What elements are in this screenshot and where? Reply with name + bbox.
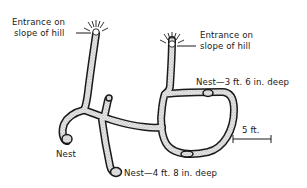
spur-chamber bbox=[106, 95, 112, 101]
nest-upper-chamber bbox=[203, 90, 213, 97]
nest-left-chamber bbox=[62, 135, 72, 144]
label-nest-left: Nest bbox=[56, 149, 76, 159]
loop-bottom-chamber bbox=[181, 151, 193, 157]
label-entrance-left-2: slope of hill bbox=[14, 28, 65, 38]
scale-bar bbox=[233, 135, 271, 143]
nest-lower-chamber bbox=[111, 168, 122, 177]
label-entrance-left-1: Entrance on bbox=[12, 17, 65, 27]
label-entrance-right-2: slope of hill bbox=[200, 41, 251, 51]
label-entrance-right-1: Entrance on bbox=[200, 30, 253, 40]
label-scale: 5 ft. bbox=[242, 125, 260, 135]
tunnel-fill bbox=[63, 34, 234, 172]
label-nest-lower: Nest—4 ft. 8 in. deep bbox=[124, 168, 217, 178]
label-nest-upper: Nest—3 ft. 6 in. deep bbox=[196, 77, 289, 87]
